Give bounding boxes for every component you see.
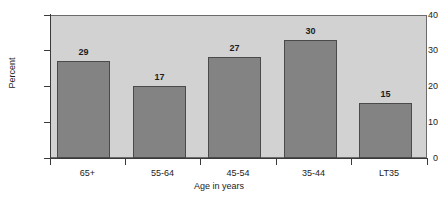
bar-label-55-64: 17 (133, 73, 186, 82)
x-axis-label-55-64: 55-64 (125, 168, 200, 178)
x-axis-label-lt35: LT35 (351, 168, 427, 178)
y-axis-label-10: 10 (412, 118, 438, 127)
x-axis-tick-end (427, 159, 428, 165)
y-axis-label-20: 20 (412, 82, 438, 91)
bar-label-lt35: 15 (359, 90, 412, 99)
x-axis-line (44, 158, 428, 159)
x-axis-label-65-plus: 65+ (50, 168, 125, 178)
x-axis-tick-2 (200, 159, 201, 165)
x-axis-tick-4 (351, 159, 352, 165)
x-axis-tick-3 (276, 159, 277, 165)
bar-label-35-44: 30 (284, 27, 337, 36)
bar-label-45-54: 27 (208, 44, 261, 53)
y-axis-tick-40 (44, 15, 51, 16)
bar-label-65-plus: 29 (57, 48, 110, 57)
y-axis-label-30: 30 (412, 46, 438, 55)
bar-35-44 (284, 40, 337, 158)
bar-lt35 (359, 103, 412, 158)
y-axis-tick-30 (44, 50, 51, 51)
bar-chart: 40 30 20 10 0 Percent 65+ 55-64 45-54 35… (0, 0, 438, 202)
x-axis-title: Age in years (0, 181, 438, 191)
y-axis-tick-20 (44, 86, 51, 87)
bar-45-54 (208, 57, 261, 158)
bar-55-64 (133, 86, 186, 158)
bar-65-plus (57, 61, 110, 158)
x-axis-label-35-44: 35-44 (276, 168, 351, 178)
x-axis-label-45-54: 45-54 (200, 168, 276, 178)
y-axis-label-40: 40 (412, 11, 438, 20)
x-axis-tick-start (50, 159, 51, 165)
y-axis-title: Percent (7, 43, 17, 103)
y-axis-tick-10 (44, 122, 51, 123)
x-axis-tick-1 (125, 159, 126, 165)
